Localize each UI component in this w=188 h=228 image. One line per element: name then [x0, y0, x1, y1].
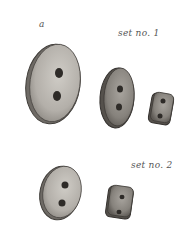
- large-oval-button: [21, 41, 86, 128]
- medium-oval-button: [98, 67, 136, 129]
- set2-oval-button: [35, 162, 86, 223]
- button-hole: [116, 104, 122, 111]
- button-hole: [117, 86, 123, 93]
- small-square-button: [148, 91, 175, 125]
- button-hole: [53, 91, 61, 101]
- button-hole: [161, 99, 166, 104]
- button-hole: [62, 182, 69, 189]
- button-hole: [55, 68, 63, 78]
- button-hole: [117, 210, 122, 215]
- button-hole: [59, 200, 66, 207]
- button-hole: [120, 195, 125, 200]
- buttons-illustration: [0, 0, 188, 228]
- button-hole: [158, 114, 163, 119]
- set2-square-button: [105, 185, 134, 220]
